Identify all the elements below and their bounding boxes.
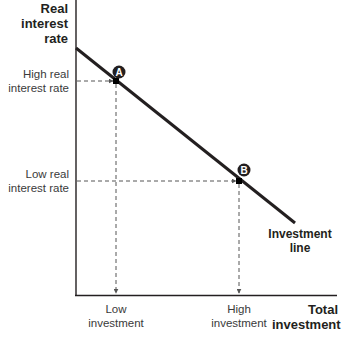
investment-line	[76, 48, 295, 223]
point-b-marker	[236, 178, 242, 184]
point-b-badge: B	[238, 164, 251, 177]
point-a-marker	[113, 78, 119, 84]
investment-diagram: A B	[0, 0, 350, 338]
point-b-letter: B	[240, 165, 247, 176]
point-a-badge: A	[113, 66, 126, 79]
point-a-letter: A	[115, 67, 122, 78]
